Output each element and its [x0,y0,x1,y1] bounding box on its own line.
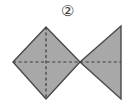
geometry-figure [0,0,134,105]
figure-panel: ② [0,0,134,105]
